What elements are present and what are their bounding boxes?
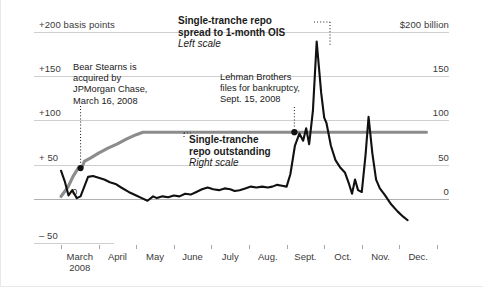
x-axis-year-label: 2008 — [56, 262, 104, 273]
bear-stearns-line1: Bear Stearns is — [73, 62, 137, 72]
x-axis-tick — [99, 245, 100, 249]
annotation-lehman: Lehman Brothers files for bankruptcy, Se… — [220, 72, 300, 106]
bear-stearns-line2: acquired by — [73, 73, 121, 83]
bear-stearns-line4: March 16, 2008 — [73, 96, 138, 106]
outstanding-label-line1: Single-tranche — [189, 134, 258, 145]
x-axis-tick — [287, 245, 288, 249]
spread-label-line1: Single-tranche repo — [178, 15, 272, 26]
annotation-outstanding-label: Single-tranche repo outstanding Right sc… — [189, 134, 271, 169]
x-axis-tick — [437, 245, 438, 249]
spread-label-line2: spread to 1-month OIS — [178, 27, 285, 38]
chart-figure: +200 basis points +150 +100 + 50 0 – 50 … — [0, 0, 483, 287]
lehman-line3: Sept. 15, 2008 — [220, 94, 280, 104]
x-axis-tick — [324, 245, 325, 249]
bear-stearns-line3: JPMorgan Chase, — [73, 84, 147, 94]
outstanding-label-scale: Right scale — [189, 157, 238, 168]
x-axis-tick — [399, 245, 400, 249]
spread-label-scale: Left scale — [178, 38, 221, 49]
x-axis-tick — [136, 245, 137, 249]
x-axis-tick — [362, 245, 363, 249]
x-axis-tick — [61, 245, 62, 249]
outstanding-label-line2: repo outstanding — [189, 146, 271, 157]
lehman-line2: files for bankruptcy, — [220, 83, 300, 93]
x-axis-tick — [249, 245, 250, 249]
x-axis-month-label-dec: Dec. — [394, 251, 442, 262]
x-axis-tick — [211, 245, 212, 249]
lehman-line1: Lehman Brothers — [220, 72, 291, 82]
annotation-bear-stearns: Bear Stearns is acquired by JPMorgan Cha… — [73, 62, 147, 107]
x-axis-tick — [174, 245, 175, 249]
annotation-spread-label: Single-tranche repo spread to 1-month OI… — [178, 15, 285, 50]
